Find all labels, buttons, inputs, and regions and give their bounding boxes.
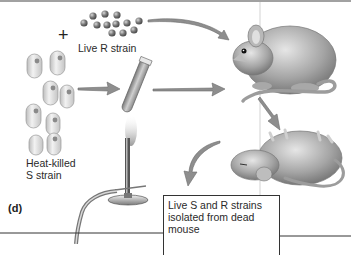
- dead-mouse: [231, 130, 343, 186]
- test-tube: [120, 56, 152, 113]
- caption-line-1: Live S and R strains: [168, 199, 262, 211]
- panel-label: (d): [8, 202, 22, 214]
- live-mouse: [233, 25, 336, 101]
- caption-text: Live S and R strains isolated from dead …: [168, 199, 262, 235]
- label-live-r-strain: Live R strain: [78, 42, 136, 54]
- arrow-tube-to-mouse: [153, 83, 225, 96]
- caption-box: Live S and R strains isolated from dead …: [163, 195, 280, 255]
- live-r-strain-bacteria: [80, 10, 142, 36]
- plus-sign: +: [58, 26, 69, 44]
- bunsen-burner: [76, 138, 148, 244]
- label-s-strain: S strain: [26, 169, 62, 181]
- arrow-s-to-tube: [78, 82, 120, 95]
- arrow-r-to-mouse: [148, 19, 229, 40]
- caption-line-2: isolated from dead: [168, 211, 262, 223]
- label-heat-killed: Heat-killed: [26, 157, 76, 169]
- caption-line-3: mouse: [168, 223, 262, 235]
- arrow-to-dead-mouse: [258, 97, 280, 130]
- heat-killed-s-strain-bacteria: [26, 51, 74, 155]
- arrow-to-caption: [184, 141, 220, 186]
